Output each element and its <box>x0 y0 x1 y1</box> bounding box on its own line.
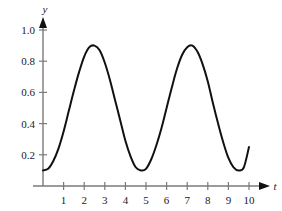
chart-figure: y t 0.20.40.60.81.0 12345678910 <box>0 0 282 211</box>
oscillation-line-chart: y t 0.20.40.60.81.0 12345678910 <box>0 0 282 211</box>
x-tick-label: 1 <box>61 194 67 206</box>
y-tick-label: 0.2 <box>21 149 35 161</box>
y-tick-label: 0.6 <box>21 86 35 98</box>
x-tick-label: 4 <box>123 194 129 206</box>
x-tick-label: 8 <box>205 194 211 206</box>
x-tick-label: 9 <box>226 194 232 206</box>
x-axis-arrowhead <box>259 182 270 190</box>
y-axis-label: y <box>42 3 48 15</box>
x-tick-label: 5 <box>143 194 149 206</box>
y-axis-arrowhead <box>39 17 47 28</box>
x-tick-label: 2 <box>81 194 87 206</box>
x-tick-label: 3 <box>102 194 108 206</box>
y-tick-label: 0.4 <box>21 118 35 130</box>
y-tick-label: 1.0 <box>21 24 35 36</box>
x-tick-label: 6 <box>164 194 170 206</box>
data-curve-oscillation <box>43 45 249 170</box>
x-tick-label: 10 <box>244 194 256 206</box>
series-group <box>43 45 249 170</box>
x-tick-label: 7 <box>184 194 190 206</box>
y-tick-label: 0.8 <box>21 55 35 67</box>
x-axis: t <box>33 180 277 192</box>
x-axis-label: t <box>273 180 277 192</box>
